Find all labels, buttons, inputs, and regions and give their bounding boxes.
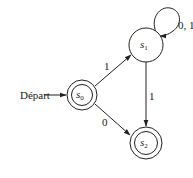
transition-s0-s2-label: 0 [102,116,108,128]
transition-s0-s2 [95,104,130,135]
transition-s1-s2-label: 1 [149,90,155,102]
automaton-diagram: Départ 1 0 1 0, 1 s0 s1 s2 [0,0,193,178]
transition-s1-self-loop [154,8,179,36]
transition-s1-s1-label: 0, 1 [178,19,193,31]
transition-s0-s1 [95,55,131,86]
transition-s0-s1-label: 1 [104,60,110,72]
state-s0: s0 [67,80,97,110]
state-s1: s1 [129,28,163,62]
state-s2: s2 [130,127,162,159]
